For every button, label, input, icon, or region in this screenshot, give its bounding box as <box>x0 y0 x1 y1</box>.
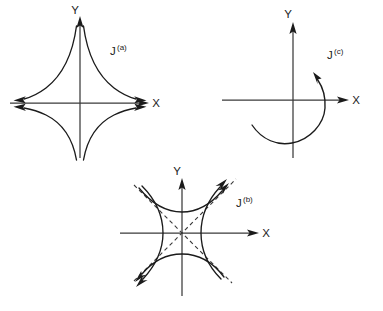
panel-a-trajectory-lower-right <box>84 104 147 160</box>
phase-portrait-figure: Y X J (a) <box>0 0 383 311</box>
panel-b-label-base: J <box>236 197 242 209</box>
panel-c-label-base: J <box>327 49 333 61</box>
panel-b-trajectory-right <box>201 179 227 279</box>
panel-c-y-axis-label: Y <box>284 8 292 20</box>
panel-a-y-axis-label: Y <box>71 4 79 16</box>
panel-b-x-axis-label: X <box>262 227 270 239</box>
panel-c-label-superscript: (c) <box>334 47 344 56</box>
panel-a-label: J (a) <box>110 43 127 57</box>
panel-a-label-base: J <box>110 45 116 57</box>
panel-c-arrowhead <box>313 72 322 84</box>
panel-b-trajectory-bottom <box>135 254 224 282</box>
panel-c: Y X J (c) <box>222 8 360 158</box>
panel-b-x-axis <box>120 229 259 236</box>
panel-c-x-axis-label: X <box>352 94 360 106</box>
panel-a-y-axis <box>76 16 83 158</box>
panel-a-trajectory-upper-right <box>84 26 147 103</box>
panel-b-label-superscript: (b) <box>243 195 253 204</box>
panel-b-y-axis <box>178 178 185 296</box>
panel-a-trajectory-upper-left <box>14 26 77 103</box>
panel-c-y-axis <box>289 22 296 158</box>
panel-a-label-superscript: (a) <box>117 43 127 52</box>
panel-a-x-axis-label: X <box>152 97 160 109</box>
panel-a: Y X J (a) <box>10 4 160 160</box>
panel-a-arrowhead-upper-left <box>14 96 26 103</box>
panel-c-trajectory-arc <box>252 72 325 144</box>
panel-a-trajectory-lower-left <box>14 104 77 160</box>
panel-b: Y X J (b) <box>120 165 270 296</box>
panel-c-label: J (c) <box>327 47 344 61</box>
panel-b-y-axis-label: Y <box>173 165 181 177</box>
figure-root: Y X J (a) <box>0 0 383 311</box>
panel-c-x-axis <box>222 96 349 103</box>
panel-b-label: J (b) <box>236 195 253 209</box>
